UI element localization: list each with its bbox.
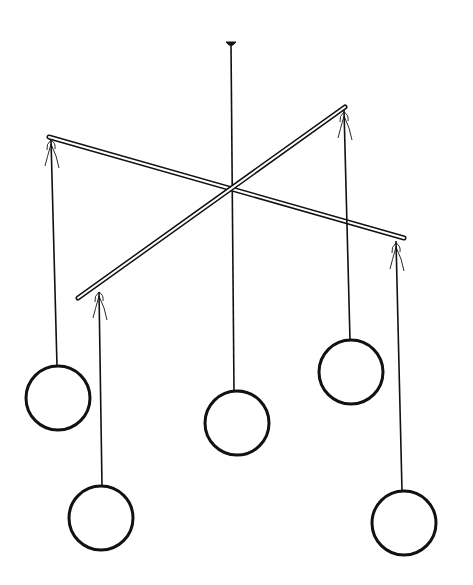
string-4 — [396, 241, 402, 491]
string-2 — [99, 292, 102, 486]
circle-ornament-4 — [319, 340, 383, 404]
string-bows — [45, 112, 404, 320]
string-3 — [344, 110, 350, 340]
circle-ornament-3 — [205, 391, 269, 455]
mobile-illustration — [0, 0, 473, 585]
string-1 — [51, 140, 57, 366]
circle-ornament-2 — [69, 486, 133, 550]
circle-ornament-5 — [372, 491, 436, 555]
hanging-circles — [26, 340, 436, 555]
circle-ornament-1 — [26, 366, 90, 430]
center-cord — [231, 44, 234, 391]
rod-highlight-1 — [49, 137, 404, 238]
center-cord-line — [231, 44, 234, 391]
rod-highlight-2 — [78, 107, 345, 298]
